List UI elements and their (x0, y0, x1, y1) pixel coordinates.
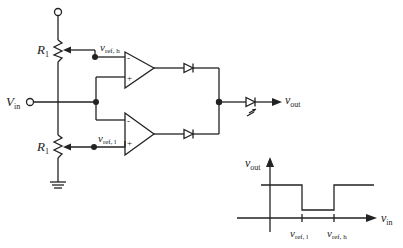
vref-high-label: vref, h (100, 41, 120, 55)
resistor-bottom-zigzag (54, 135, 62, 158)
resistor-top-zigzag (54, 40, 62, 62)
wiper-arrow-bottom (63, 144, 71, 151)
diode-bottom (184, 130, 193, 139)
vin-label: Vin (6, 94, 20, 111)
node-dot (93, 99, 99, 105)
graph-y-arrow (266, 157, 274, 167)
graph-x-label: vin (381, 211, 393, 227)
wiper-arrow-top (63, 47, 71, 54)
opamp-top-minus: - (127, 53, 130, 63)
resistor-bottom-label: R1 (36, 139, 49, 156)
graph-y-label: vout (245, 156, 261, 172)
opamp-bottom-plus: + (127, 138, 132, 148)
graph-transfer-curve (261, 185, 374, 210)
supply-terminal (55, 9, 62, 16)
vout-label: vout (285, 93, 301, 109)
graph-x-arrow (366, 214, 377, 222)
opamp-bottom-minus: - (127, 116, 130, 126)
opamp-top-plus: + (127, 73, 132, 83)
diode-top (184, 64, 193, 73)
led (246, 98, 255, 107)
vin-terminal (27, 99, 34, 106)
graph-tick-high-label: vref, h (327, 227, 347, 241)
vref-low-label: vref, l (98, 132, 116, 146)
window-comparator-diagram: R1 vref, h - + Vin - + vout R1 vref, l (0, 0, 403, 248)
graph-tick-low-label: vref, l (290, 227, 308, 241)
resistor-top-label: R1 (36, 42, 49, 59)
node-dot (91, 144, 97, 150)
output-arrow (272, 98, 282, 106)
